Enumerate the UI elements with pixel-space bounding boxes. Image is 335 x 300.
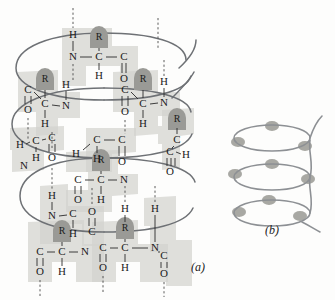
panel-a-label: (a) [191,260,205,274]
panel-b-label: (b) [265,223,279,237]
figure-canvas: HRNCCHOCORCNHHHCCHONCORCNHHCCHOHRCCHORCC… [0,0,335,300]
caption-layer: (a) (b) [0,0,335,300]
